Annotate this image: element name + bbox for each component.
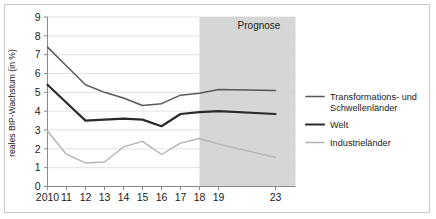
chart-legend: Transformations- undSchwellenländerWeltI… — [306, 92, 417, 148]
x-tick-label-15: 15 — [137, 191, 149, 203]
y-tick-group: 0123456789 — [35, 11, 48, 193]
y-axis-label: reales BIP-Wachstum (in %) — [7, 49, 17, 157]
y-tick-label-4: 4 — [35, 105, 41, 117]
legend-label-1[interactable]: Welt — [330, 120, 349, 130]
legend-label-0[interactable]: Transformations- und — [330, 92, 417, 102]
legend-label-0-line2[interactable]: Schwellenländer — [330, 103, 397, 113]
y-tick-label-9: 9 — [35, 11, 41, 23]
y-tick-label-2: 2 — [35, 143, 41, 155]
legend-label-2[interactable]: Industrieländer — [330, 138, 391, 148]
x-tick-label-13: 13 — [99, 191, 111, 203]
y-tick-label-5: 5 — [35, 86, 41, 98]
x-tick-label-16: 16 — [156, 191, 168, 203]
x-tick-label-23: 23 — [270, 191, 282, 203]
y-tick-label-6: 6 — [35, 67, 41, 79]
x-tick-group: 201011121314151617181923 — [36, 187, 282, 203]
y-tick-label-7: 7 — [35, 48, 41, 60]
x-tick-label-11: 11 — [61, 191, 72, 203]
x-tick-label-12: 12 — [80, 191, 92, 203]
forecast-band-group — [200, 17, 296, 187]
x-tick-label-18: 18 — [194, 191, 206, 203]
y-tick-label-8: 8 — [35, 30, 41, 42]
prognose-label: Prognose — [238, 20, 281, 31]
chart-svg: 0123456789 201011121314151617181923 real… — [0, 0, 436, 219]
prognose-shaded-band — [200, 17, 296, 187]
y-tick-label-3: 3 — [35, 124, 41, 136]
x-tick-label-17: 17 — [175, 191, 187, 203]
x-tick-label-19: 19 — [213, 191, 225, 203]
y-tick-label-1: 1 — [35, 161, 41, 173]
gdp-growth-line-chart: 0123456789 201011121314151617181923 real… — [0, 0, 436, 219]
x-tick-label-2010: 2010 — [36, 191, 60, 203]
x-tick-label-14: 14 — [118, 191, 130, 203]
